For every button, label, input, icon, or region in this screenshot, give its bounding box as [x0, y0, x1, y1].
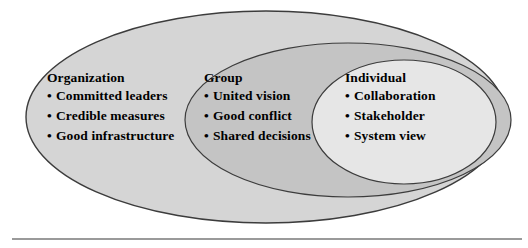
bullet-icon: •	[204, 86, 213, 106]
bullet-icon: •	[47, 106, 56, 126]
list-item: •Good conflict	[204, 106, 311, 126]
ring-items-organization: •Committed leaders •Credible measures •G…	[47, 86, 174, 146]
list-item-label: Shared decisions	[213, 128, 311, 143]
bullet-icon: •	[47, 126, 56, 146]
bullet-icon: •	[204, 126, 213, 146]
ring-label-group-individual: Individual •Collaboration •Stakeholder •…	[345, 69, 436, 146]
list-item: •System view	[345, 126, 436, 146]
horizontal-rule	[12, 238, 522, 240]
list-item: •Shared decisions	[204, 126, 311, 146]
bullet-icon: •	[47, 86, 56, 106]
ring-label-group-organization: Organization •Committed leaders •Credibl…	[47, 69, 174, 146]
list-item: •Good infrastructure	[47, 126, 174, 146]
ring-items-individual: •Collaboration •Stakeholder •System view	[345, 86, 436, 146]
bullet-icon: •	[204, 106, 213, 126]
ring-items-group: •United vision •Good conflict •Shared de…	[204, 86, 311, 146]
list-item: •Stakeholder	[345, 106, 436, 126]
list-item: •United vision	[204, 86, 311, 106]
diagram-canvas: Organization •Committed leaders •Credibl…	[0, 0, 528, 248]
bullet-icon: •	[345, 106, 354, 126]
ring-title-organization: Organization	[47, 69, 174, 86]
list-item-label: United vision	[213, 88, 290, 103]
list-item-label: Stakeholder	[354, 108, 425, 123]
list-item-label: System view	[354, 128, 426, 143]
ring-title-individual: Individual	[345, 69, 436, 86]
list-item-label: Good infrastructure	[56, 128, 174, 143]
list-item: •Credible measures	[47, 106, 174, 126]
list-item-label: Collaboration	[354, 88, 436, 103]
list-item-label: Committed leaders	[56, 88, 168, 103]
list-item: •Collaboration	[345, 86, 436, 106]
bullet-icon: •	[345, 126, 354, 146]
bullet-icon: •	[345, 86, 354, 106]
ring-title-group: Group	[204, 69, 311, 86]
list-item: •Committed leaders	[47, 86, 174, 106]
list-item-label: Credible measures	[56, 108, 165, 123]
ring-label-group-group: Group •United vision •Good conflict •Sha…	[204, 69, 311, 146]
list-item-label: Good conflict	[213, 108, 292, 123]
